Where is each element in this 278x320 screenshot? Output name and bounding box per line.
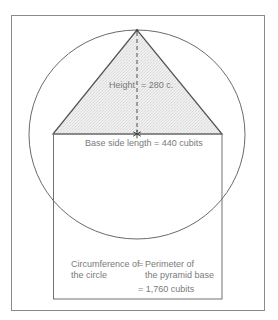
equals-sign: = <box>138 259 143 270</box>
perimeter-label-line2: the pyramid base <box>145 270 214 281</box>
circumference-label-line2: the circle <box>71 270 107 281</box>
total-cubits-label: = 1,760 cubits <box>138 284 194 295</box>
perimeter-label-line1: Perimeter of <box>145 259 194 270</box>
height-value: = 280 c. <box>141 80 173 91</box>
base-length-label: Base side length = 440 cubits <box>85 138 203 149</box>
height-label: Height <box>109 80 135 91</box>
circumference-label-line1: Circumference of <box>71 259 140 270</box>
apex-point <box>136 29 138 31</box>
pyramid-circle-diagram: Height = 280 c. Base side length = 440 c… <box>0 0 278 320</box>
diagram-canvas <box>0 0 278 320</box>
